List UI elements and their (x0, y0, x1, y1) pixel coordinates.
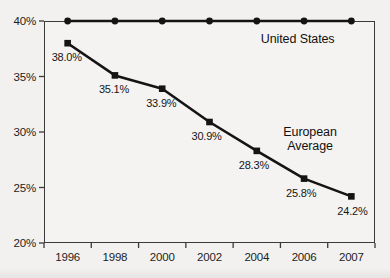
y-axis-tick-label: 30% (2, 126, 36, 138)
data-point-label: 28.3% (239, 159, 269, 171)
data-point-label: 38.0% (52, 51, 82, 63)
data-point-label: 33.9% (146, 97, 176, 109)
x-axis-tick-label: 1998 (91, 251, 139, 263)
y-axis-tick-label: 25% (2, 182, 36, 194)
data-point-label: 24.2% (337, 205, 367, 217)
x-axis-tick-label: 2004 (233, 251, 281, 263)
x-axis-tick-label: 2002 (186, 251, 234, 263)
series-label-european-average-line1: European (283, 125, 336, 139)
series-lines (68, 21, 352, 196)
x-axis-tick-label: 2006 (280, 251, 328, 263)
y-axis-tick-label: 35% (2, 71, 36, 83)
line-chart: 20%25%30%35%40% 199619982000200220042006… (0, 0, 390, 278)
data-point-label: 25.8% (286, 187, 316, 199)
series-label-european-average-line2: Average (287, 139, 333, 153)
y-axis-tick-label: 40% (2, 15, 36, 27)
series-label-united-states: United States (261, 32, 335, 46)
data-point-label: 30.9% (192, 130, 222, 142)
data-point-label: 35.1% (99, 83, 129, 95)
x-axis-tick-label: 2000 (138, 251, 186, 263)
y-axis-tick-label: 20% (2, 237, 36, 249)
x-axis-ticks (44, 243, 375, 248)
x-axis-tick-label: 2007 (327, 251, 375, 263)
x-axis-tick-label: 1996 (44, 251, 92, 263)
y-axis-ticks (39, 21, 44, 243)
